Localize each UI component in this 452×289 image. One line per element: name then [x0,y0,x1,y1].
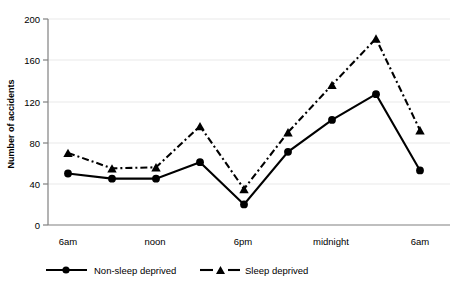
legend-entry-sleep-deprived: Sleep deprived [200,265,308,276]
y-tick-label-200: 200 [24,14,40,25]
circle-marker [64,170,72,178]
chart-plot-area: 200 160 120 80 40 0 6am noon 6pm midnigh… [0,0,452,289]
x-tick-labels: 6am noon 6pm midnight 6am [59,236,430,247]
circle-marker [152,175,160,183]
triangle-marker-icon [216,266,225,274]
axes-lines [48,19,450,225]
legend-label-non-sleep-deprived: Non-sleep deprived [94,265,176,276]
series-sleep-deprived [63,34,424,193]
y-tick-marks [43,19,48,225]
chart-legend: Non-sleep deprived Sleep deprived [46,265,308,276]
triangle-marker [63,149,72,157]
circle-marker [284,148,292,156]
legend-entry-non-sleep-deprived: Non-sleep deprived [46,265,176,276]
legend-label-sleep-deprived: Sleep deprived [245,265,308,276]
circle-marker [416,167,424,175]
accidents-by-time-of-day-line-chart: Number of accidents 200 160 [0,0,452,289]
triangle-marker [327,81,336,89]
circle-marker [240,201,248,209]
triangle-marker [415,126,424,134]
series-line [68,39,420,189]
y-tick-label-160: 160 [24,55,40,66]
circle-marker-icon [62,266,69,273]
circle-marker [108,175,116,183]
x-tick-label-6am-next: 6am [411,236,430,247]
y-tick-label-40: 40 [29,179,40,190]
x-tick-label-6am-morning: 6am [59,236,78,247]
x-tick-label-noon: noon [144,236,165,247]
triangle-marker [371,34,380,42]
y-tick-label-120: 120 [24,97,40,108]
x-tick-label-midnight: midnight [313,236,349,247]
y-tick-label-0: 0 [35,220,40,231]
circle-marker [196,158,204,166]
circle-marker [372,90,380,98]
x-tick-label-6pm: 6pm [234,236,253,247]
triangle-marker [195,122,204,130]
circle-marker [328,116,336,124]
y-tick-label-80: 80 [29,138,40,149]
y-tick-labels: 200 160 120 80 40 0 [24,14,40,231]
gridlines [48,19,450,184]
